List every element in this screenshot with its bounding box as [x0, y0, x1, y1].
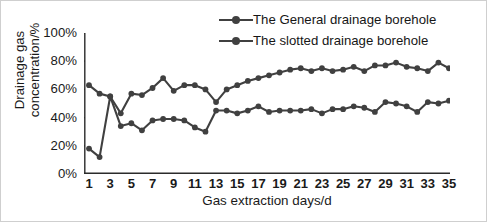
- data-point: [436, 60, 442, 66]
- data-point: [150, 118, 156, 124]
- data-point: [86, 82, 92, 88]
- y-axis-tick-label: 100%: [31, 26, 77, 39]
- data-point: [224, 108, 230, 114]
- data-point: [393, 101, 399, 107]
- data-point: [404, 103, 410, 109]
- data-point: [361, 68, 367, 74]
- plot-area: [84, 33, 450, 174]
- data-point: [86, 146, 92, 152]
- legend-item-general-drainage-borehole[interactable]: The General drainage borehole: [219, 9, 481, 30]
- data-point: [97, 154, 103, 160]
- series-1: [86, 60, 450, 117]
- data-point: [192, 125, 198, 131]
- data-point: [404, 64, 410, 70]
- data-point: [319, 65, 325, 71]
- x-axis-tick-label: 35: [437, 177, 461, 191]
- data-point: [160, 116, 166, 122]
- series-2: [86, 94, 450, 160]
- data-point: [256, 75, 262, 81]
- data-point: [446, 98, 450, 104]
- data-point: [234, 110, 240, 116]
- data-point: [97, 91, 103, 97]
- data-point: [171, 88, 177, 94]
- data-point: [118, 110, 124, 116]
- data-point: [330, 106, 336, 112]
- legend-line-marker-icon: [219, 14, 253, 26]
- y-axis-tick-label: 60%: [31, 82, 77, 95]
- y-axis-tick-label: 80%: [31, 54, 77, 67]
- data-point: [118, 123, 124, 129]
- data-point: [383, 99, 389, 105]
- data-point: [266, 72, 272, 78]
- y-axis-tick-label: 40%: [31, 111, 77, 124]
- data-point: [203, 87, 209, 93]
- data-point: [298, 108, 304, 114]
- data-point: [287, 108, 293, 114]
- data-point: [150, 85, 156, 91]
- data-point: [393, 60, 399, 66]
- x-axis-title: Gas extraction days/d: [84, 193, 450, 208]
- data-point: [213, 99, 219, 105]
- data-point: [128, 120, 134, 126]
- legend-item-label: The General drainage borehole: [253, 13, 436, 27]
- data-point: [330, 68, 336, 74]
- data-point: [340, 67, 346, 73]
- data-point: [192, 82, 198, 88]
- data-point: [308, 68, 314, 74]
- data-point: [340, 106, 346, 112]
- data-point: [308, 106, 314, 112]
- data-point: [436, 101, 442, 107]
- data-point: [425, 99, 431, 105]
- data-point: [277, 70, 283, 76]
- data-point: [203, 129, 209, 135]
- data-point: [224, 87, 230, 93]
- chart-canvas: [84, 33, 450, 174]
- data-point: [361, 105, 367, 111]
- data-point: [383, 63, 389, 69]
- data-point: [139, 92, 145, 98]
- data-point: [266, 109, 272, 115]
- data-point: [425, 68, 431, 74]
- data-point: [181, 118, 187, 124]
- data-point: [128, 91, 134, 97]
- x-axis-tick-labels: 1357911131517192123252729313335: [84, 177, 456, 193]
- y-axis-tick-labels: 0%20%40%60%80%100%: [29, 1, 77, 222]
- y-axis-tick-label: 0%: [31, 167, 77, 180]
- data-point: [351, 64, 357, 70]
- data-point: [139, 127, 145, 133]
- data-point: [245, 108, 251, 114]
- data-point: [414, 65, 420, 71]
- y-axis-tick-label: 20%: [31, 139, 77, 152]
- data-point: [277, 108, 283, 114]
- data-point: [245, 78, 251, 84]
- data-point: [372, 109, 378, 115]
- data-point: [298, 65, 304, 71]
- data-point: [372, 63, 378, 69]
- data-point: [181, 82, 187, 88]
- chart-figure: The General drainage borehole The slotte…: [0, 0, 487, 222]
- data-point: [319, 110, 325, 116]
- data-point: [351, 103, 357, 109]
- data-point: [287, 67, 293, 73]
- data-point: [414, 109, 420, 115]
- data-point: [171, 116, 177, 122]
- data-point: [107, 94, 113, 100]
- data-point: [234, 82, 240, 88]
- data-point: [256, 103, 262, 109]
- data-point: [213, 108, 219, 114]
- data-point: [160, 75, 166, 81]
